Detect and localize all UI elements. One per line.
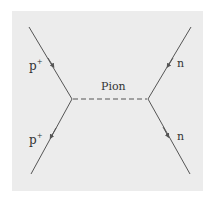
left-in-label: p+ bbox=[29, 58, 43, 73]
right-out-label: n bbox=[177, 130, 184, 143]
right-incoming-line bbox=[148, 27, 191, 99]
right-in-label: n bbox=[177, 57, 184, 70]
feynman-diagram: Pion p+ p+ n n bbox=[0, 0, 211, 201]
pion-label: Pion bbox=[101, 80, 126, 93]
left-out-label: p+ bbox=[29, 132, 43, 147]
